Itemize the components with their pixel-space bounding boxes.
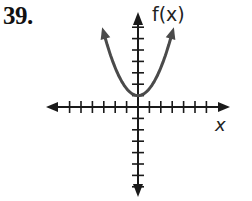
y-axis-label: f(x) — [152, 3, 185, 25]
x-axis-right-arrow-icon — [218, 102, 230, 112]
y-axis-up-arrow-icon — [133, 12, 143, 25]
y-axis — [133, 12, 143, 197]
coordinate-plane — [0, 0, 252, 201]
x-axis-label: x — [215, 114, 226, 135]
x-axis-left-arrow-icon — [46, 102, 58, 112]
curve-right-arrow-icon — [166, 27, 176, 40]
y-axis-down-arrow-icon — [133, 184, 143, 197]
curve-left-arrow-icon — [101, 27, 111, 40]
